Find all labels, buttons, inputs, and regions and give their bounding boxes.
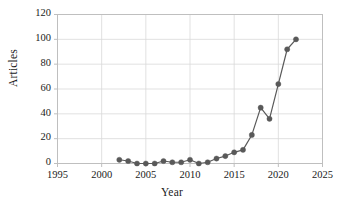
data-point — [187, 157, 192, 162]
data-point — [152, 161, 157, 166]
data-point — [170, 160, 175, 165]
data-point — [285, 47, 290, 52]
data-point — [240, 147, 245, 152]
x-axis-title: Year — [0, 186, 344, 198]
x-tick-label: 2020 — [258, 169, 298, 180]
data-point — [249, 132, 254, 137]
tick-marks — [54, 15, 323, 168]
data-point — [214, 156, 219, 161]
x-tick-label: 2005 — [126, 169, 166, 180]
data-point — [117, 157, 122, 162]
series-markers-articles — [117, 37, 299, 166]
data-point — [258, 105, 263, 110]
data-point — [143, 161, 148, 166]
data-point — [134, 161, 139, 166]
x-tick-label: 2000 — [82, 169, 122, 180]
data-point — [276, 81, 281, 86]
data-point — [267, 116, 272, 121]
y-tick-label: 60 — [17, 82, 51, 93]
data-point — [205, 160, 210, 165]
data-point — [196, 161, 201, 166]
line-chart: 120100806040200 199520002005201020152020… — [0, 0, 344, 207]
x-tick-label: 1995 — [38, 169, 78, 180]
data-point — [223, 153, 228, 158]
grid-lines — [58, 15, 323, 164]
x-tick-label: 2010 — [170, 169, 210, 180]
x-tick-label: 2025 — [303, 169, 343, 180]
data-point — [293, 37, 298, 42]
data-point — [126, 158, 131, 163]
data-point — [179, 160, 184, 165]
y-tick-label: 20 — [17, 131, 51, 142]
data-point — [161, 158, 166, 163]
y-axis-title: Articles — [7, 38, 19, 98]
x-tick-label: 2015 — [214, 169, 254, 180]
data-point — [232, 150, 237, 155]
y-tick-label: 0 — [17, 156, 51, 167]
y-tick-label: 40 — [17, 107, 51, 118]
y-tick-label: 120 — [17, 7, 51, 18]
y-tick-label: 80 — [17, 57, 51, 68]
y-tick-label: 100 — [17, 32, 51, 43]
